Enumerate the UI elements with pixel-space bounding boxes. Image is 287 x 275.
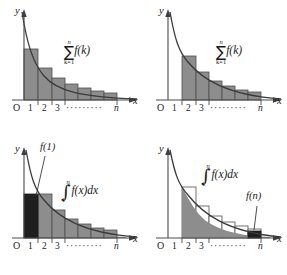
tick-ellipsis: ·········: [66, 242, 103, 252]
tick-label-n: n: [258, 104, 263, 114]
integral-notation: n ∫ 1: [201, 163, 210, 187]
sigma-notation: n ∑ k=1: [64, 39, 74, 65]
tick-label-1: 1: [28, 104, 33, 114]
tick-label-n: n: [114, 242, 119, 252]
tick-label-n: n: [114, 104, 119, 114]
summation-formula: n ∑ k=1 f(k): [216, 38, 242, 64]
origin-label: O: [13, 103, 20, 113]
integral-notation: n ∫ 1: [61, 179, 70, 203]
tick-label-2: 2: [186, 242, 191, 252]
x-axis-label: x: [277, 96, 282, 107]
f1-leader-line: [36, 156, 45, 196]
upper-sum-panel: y x O 1 2 3 ········· n n ∑ k=1 f(k): [0, 0, 143, 137]
y-axis-label: y: [15, 6, 20, 17]
integral-body: f(x)dx: [211, 168, 238, 180]
figure-sheet: y x O 1 2 3 ········· n n ∑ k=1 f(k): [0, 0, 287, 275]
integral-lower-bound-panel: y x O 1 2 3 ········· n f(1) n ∫ 1 f(x)d…: [0, 138, 143, 275]
sigma-lower-limit: k=1: [216, 59, 226, 66]
tick-label-3: 3: [55, 242, 60, 252]
integral-lower-bound-diagram: [0, 138, 143, 275]
tick-ellipsis: ·········: [210, 104, 247, 114]
y-axis-label: y: [15, 144, 20, 155]
integral-upper-bound-diagram: [144, 138, 287, 275]
tick-ellipsis: ·········: [66, 104, 103, 114]
tick-label-1: 1: [172, 242, 177, 252]
sigma-lower-limit: k=1: [64, 59, 74, 66]
origin-label: O: [157, 103, 164, 113]
bar-1: [24, 49, 38, 100]
integral-formula: n ∫ 1 f(x)dx: [61, 179, 98, 203]
tick-label-2: 2: [186, 104, 191, 114]
upper-sum-diagram: [0, 0, 143, 137]
y-axis-label: y: [159, 6, 164, 17]
tick-label-3: 3: [55, 104, 60, 114]
lower-sum-diagram: [144, 0, 287, 137]
origin-label: O: [13, 241, 20, 251]
fn-leader-line: [254, 206, 257, 230]
sigma-notation: n ∑ k=1: [216, 39, 226, 65]
tick-label-2: 2: [42, 242, 47, 252]
tick-label-1: 1: [28, 242, 33, 252]
bar-2: [38, 68, 52, 100]
summation-body: f(k): [226, 44, 242, 56]
tick-label-1: 1: [172, 104, 177, 114]
integral-body: f(x)dx: [71, 184, 98, 196]
summation-body: f(k): [74, 44, 90, 56]
f-of-1-label: f(1): [40, 142, 55, 153]
integral-formula: n ∫ 1 f(x)dx: [201, 163, 238, 187]
x-axis-label: x: [133, 96, 138, 107]
f-of-n-label: f(n): [246, 191, 261, 202]
x-axis-label: x: [277, 234, 282, 245]
summation-formula: n ∑ k=1 f(k): [64, 38, 90, 64]
tick-label-3: 3: [199, 104, 204, 114]
tick-label-3: 3: [199, 242, 204, 252]
lower-sum-panel: y x O 1 2 3 ········· n n ∑ k=1 f(k): [144, 0, 287, 137]
y-axis-label: y: [159, 144, 164, 155]
bar-7: [104, 93, 117, 100]
dark-bar-f1: [24, 194, 38, 238]
x-axis-label: x: [133, 234, 138, 245]
tick-label-2: 2: [42, 104, 47, 114]
origin-label: O: [157, 241, 164, 251]
tick-label-n: n: [258, 242, 263, 252]
integral-upper-bound-panel: y x O 1 2 3 ········· n f(n) n ∫ 1 f(x)d…: [144, 138, 287, 275]
tick-ellipsis: ·········: [210, 242, 247, 252]
